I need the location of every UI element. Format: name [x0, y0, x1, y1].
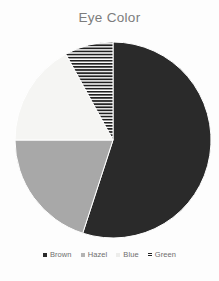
legend-item-green[interactable]: Green: [148, 250, 176, 259]
legend-label-brown: Brown: [50, 250, 72, 259]
legend-swatch-green-hatch-icon: [148, 253, 152, 257]
pie-chart-canvas: [0, 32, 219, 246]
chart-title: Eye Color: [0, 10, 219, 25]
legend-swatch-hazel-icon: [81, 253, 85, 257]
pie-slice-group: [15, 42, 211, 238]
legend-item-brown[interactable]: Brown: [43, 250, 72, 259]
legend-label-green: Green: [155, 250, 176, 259]
legend-label-blue: Blue: [123, 250, 138, 259]
chart-legend: Brown Hazel Blue Green: [0, 250, 219, 259]
pie-chart-figure: Eye Color Brown Hazel Blue Green: [0, 0, 219, 281]
legend-swatch-blue-icon: [116, 253, 120, 257]
legend-swatch-brown-icon: [43, 253, 47, 257]
legend-label-hazel: Hazel: [88, 250, 108, 259]
legend-item-blue[interactable]: Blue: [116, 250, 138, 259]
legend-item-hazel[interactable]: Hazel: [81, 250, 108, 259]
